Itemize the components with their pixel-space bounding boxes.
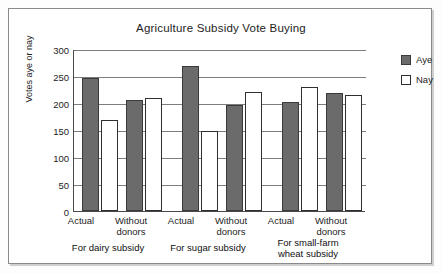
group-label-sugar: For sugar subsidy	[153, 242, 263, 253]
plot-area	[73, 50, 365, 212]
y-tick-200: 200	[29, 99, 69, 110]
sub-label-sugar-actual: Actual	[155, 215, 207, 226]
legend-item-nay[interactable]: Nay	[401, 74, 443, 85]
sub-label-wheat-without-donors: Without donors	[303, 215, 359, 237]
bar-wheat-actual-nay[interactable]	[301, 87, 318, 211]
chart-page: Agriculture Subsidy Vote Buying Votes ay…	[0, 0, 443, 274]
sub-label-dairy-actual: Actual	[55, 215, 107, 226]
sub-label-wheat-actual: Actual	[255, 215, 307, 226]
bar-sugar-actual-nay[interactable]	[201, 131, 218, 211]
y-tick-50: 50	[29, 180, 69, 191]
chart-frame: Agriculture Subsidy Vote Buying Votes ay…	[8, 8, 432, 264]
y-tick-100: 100	[29, 153, 69, 164]
sub-label-dairy-without-donors: Without donors	[103, 215, 159, 237]
y-tick-250: 250	[29, 72, 69, 83]
aye-swatch-icon	[401, 55, 411, 65]
legend-label-aye: Aye	[416, 54, 432, 65]
gridline-250	[74, 77, 366, 78]
bar-dairy-actual-nay[interactable]	[101, 120, 118, 211]
bar-dairy-without-donors-nay[interactable]	[145, 98, 162, 211]
legend: Aye Nay	[401, 54, 443, 94]
bar-wheat-without-donors-aye[interactable]	[326, 93, 343, 211]
y-tick-150: 150	[29, 126, 69, 137]
group-label-dairy: For dairy subsidy	[53, 242, 163, 253]
bar-wheat-without-donors-nay[interactable]	[345, 95, 362, 211]
y-tick-300: 300	[29, 45, 69, 56]
sub-label-sugar-without-donors: Without donors	[203, 215, 259, 237]
legend-item-aye[interactable]: Aye	[401, 54, 443, 65]
bar-sugar-actual-aye[interactable]	[182, 66, 199, 211]
chart-title: Agriculture Subsidy Vote Buying	[9, 22, 433, 34]
y-axis-tick-labels: 0 50 100 150 200 250 300	[25, 50, 69, 212]
group-label-wheat: For small-farm wheat subsidy	[253, 237, 363, 259]
bar-sugar-without-donors-aye[interactable]	[226, 105, 243, 211]
gridline-200	[74, 104, 366, 105]
bar-wheat-actual-aye[interactable]	[282, 102, 299, 211]
gridline-300	[74, 50, 366, 51]
bar-sugar-without-donors-nay[interactable]	[245, 92, 262, 211]
bar-dairy-without-donors-aye[interactable]	[126, 100, 143, 211]
legend-label-nay: Nay	[416, 74, 433, 85]
nay-swatch-icon	[401, 75, 411, 85]
bar-dairy-actual-aye[interactable]	[82, 78, 99, 211]
